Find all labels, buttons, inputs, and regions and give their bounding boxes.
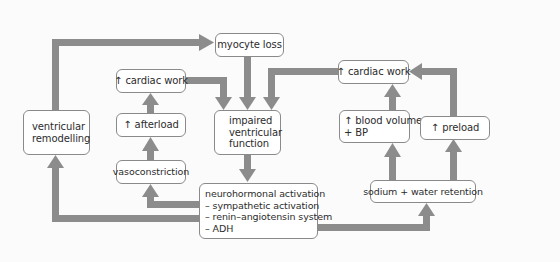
node-label-line: – renin–angiotensin system <box>205 211 311 223</box>
node-label-line: + BP <box>344 127 403 139</box>
arrow-cardiacwork-right-to-impaired <box>263 68 338 110</box>
node-impaired-ventricular-function: impaired ventricular function <box>214 110 281 155</box>
arrow-sodium-to-preload <box>445 139 462 181</box>
diagram-canvas: myocyte loss ↑ cardiac work ventricular … <box>0 0 560 262</box>
arrow-bloodvolume-to-cardiacwork <box>384 84 401 110</box>
node-label: myocyte loss <box>217 39 282 51</box>
arrow-cardiacwork-left-to-impaired <box>185 77 232 110</box>
node-vasoconstriction: vasoconstriction <box>116 160 186 184</box>
node-label: ↑ cardiac work <box>337 66 411 78</box>
node-sodium-water-retention: sodium + water retention <box>370 180 476 203</box>
node-label: vasoconstriction <box>113 166 189 178</box>
node-label-line: – ADH <box>205 223 311 235</box>
arrow-impaired-to-neurohormonal <box>239 154 256 182</box>
node-label-line: impaired <box>229 115 274 127</box>
node-label-line: – sympathetic activation <box>205 200 311 212</box>
node-myocyte-loss: myocyte loss <box>215 33 284 57</box>
node-cardiac-work-right: ↑ cardiac work <box>338 60 409 84</box>
node-blood-volume-bp: ↑ blood volume + BP <box>339 110 410 143</box>
arrow-vasoconstriction-to-afterload <box>142 137 159 160</box>
node-ventricular-remodelling: ventricular remodelling <box>23 110 90 155</box>
arrow-afterload-to-cardiacwork <box>142 93 159 113</box>
node-label-line: ↑ blood volume <box>344 115 403 127</box>
node-label: sodium + water retention <box>363 186 483 198</box>
node-label-line: ventricular <box>32 121 83 133</box>
arrow-sodium-to-bloodvolume <box>384 143 401 181</box>
node-label-line: function <box>229 138 274 150</box>
node-cardiac-work-left: ↑ cardiac work <box>116 69 186 93</box>
arrow-myocyte-to-impaired <box>239 56 256 110</box>
arrow-neurohormonal-to-vasoconstriction <box>142 184 199 208</box>
node-label: ↑ cardiac work <box>114 75 188 87</box>
node-afterload: ↑ afterload <box>116 113 186 137</box>
node-neurohormonal-activation: neurohormonal activation – sympathetic a… <box>199 183 318 239</box>
node-label: ↑ afterload <box>123 119 179 131</box>
node-label: ↑ preload <box>431 122 479 134</box>
arrow-preload-to-cardiacwork <box>409 63 457 116</box>
arrow-neurohormonal-to-sodium <box>317 203 435 231</box>
node-label-line: remodelling <box>32 133 83 145</box>
node-label-line: neurohormonal activation <box>205 188 311 200</box>
node-preload: ↑ preload <box>420 116 490 140</box>
node-label-line: ventricular <box>229 127 274 139</box>
